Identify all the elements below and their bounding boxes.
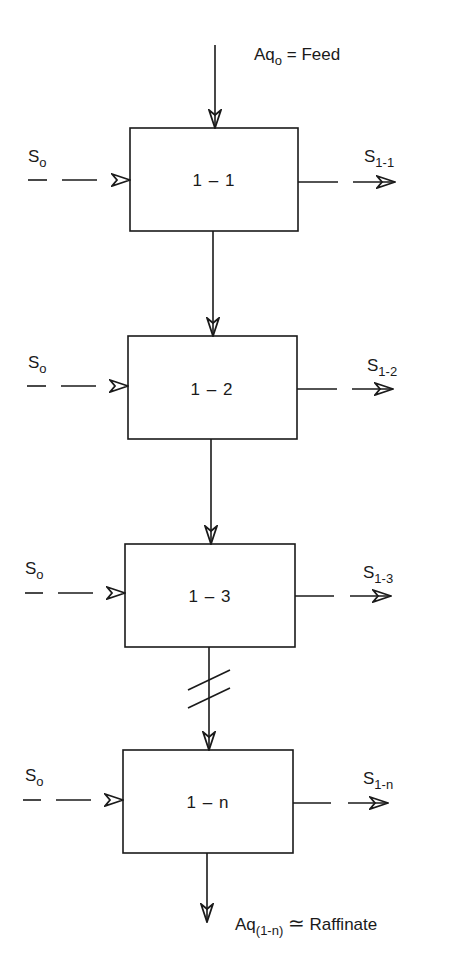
extract-out-sub: 1-1	[375, 155, 394, 170]
solvent-in-label-1: So	[28, 148, 47, 165]
solvent-in-label-n: So	[25, 767, 44, 784]
extract-out-main: S	[367, 356, 378, 375]
solvent-in-main: S	[28, 353, 39, 372]
extract-out-label-2: S1-2	[367, 357, 397, 374]
solvent-in-main: S	[25, 766, 36, 785]
solvent-in-sub: o	[36, 774, 43, 789]
solvent-in-main: S	[25, 559, 36, 578]
extract-out-sub: 1-2	[378, 364, 397, 379]
feed-label-rest: = Feed	[282, 45, 340, 64]
stage-label-2: 1 – 2	[152, 381, 272, 398]
extract-out-label-1: S1-1	[364, 148, 394, 165]
raffinate-label-rest: Raffinate	[309, 915, 377, 934]
raffinate-label-sub: (1-n)	[256, 923, 283, 938]
extract-out-label-n: S1-n	[363, 770, 393, 787]
extract-out-sub: 1-n	[374, 777, 393, 792]
raffinate-label-main: Aq	[235, 915, 256, 934]
solvent-in-sub: o	[39, 155, 46, 170]
solvent-in-sub: o	[39, 361, 46, 376]
solvent-in-label-2: So	[28, 354, 47, 371]
extract-out-sub: 1-3	[374, 571, 393, 586]
feed-label: Aqo = Feed	[254, 46, 340, 63]
raffinate-label: Aq(1-n) ≃ Raffinate	[235, 913, 377, 933]
extract-out-main: S	[364, 147, 375, 166]
stage-label-3: 1 – 3	[150, 588, 270, 605]
solvent-in-label-3: So	[25, 560, 44, 577]
stage-label-1: 1 – 1	[154, 172, 274, 189]
approx-equal-icon: ≃	[288, 912, 305, 934]
solvent-in-sub: o	[36, 567, 43, 582]
extract-out-main: S	[363, 769, 374, 788]
stage-label-n: 1 – n	[148, 794, 268, 811]
extract-out-label-3: S1-3	[363, 564, 393, 581]
feed-label-sub: o	[275, 53, 282, 68]
extract-out-main: S	[363, 563, 374, 582]
feed-label-main: Aq	[254, 45, 275, 64]
solvent-in-main: S	[28, 147, 39, 166]
extraction-cascade-diagram	[0, 0, 476, 974]
